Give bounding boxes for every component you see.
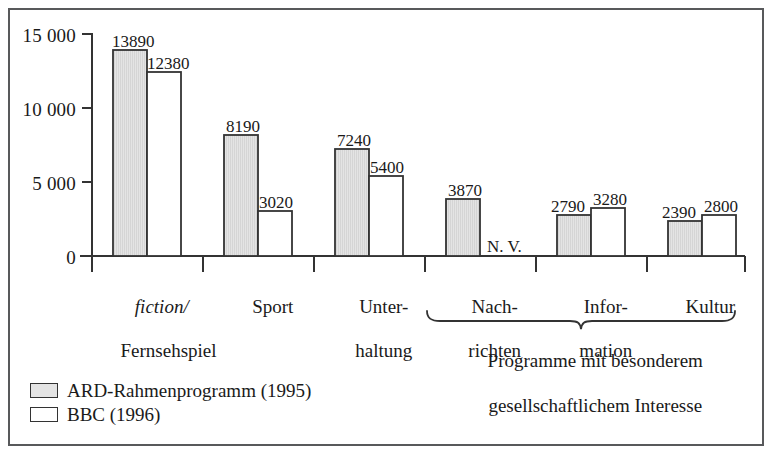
- y-tick-label-5000: 5 000: [0, 174, 76, 193]
- value-label-ard-kultur: 2390: [662, 204, 696, 221]
- value-label-ard-sport: 8190: [226, 118, 260, 135]
- category-label-kultur-line1: Kultur: [685, 296, 735, 317]
- legend-swatch-ard-icon: [30, 383, 58, 398]
- chart-figure: 15 000 10 000 5 000 0 13890 12380 8190 3…: [0, 0, 779, 459]
- y-tick-label-10000: 10 000: [0, 100, 76, 119]
- value-label-bbc-sport: 3020: [259, 194, 293, 211]
- category-label-nachrichten-line1: Nach-: [472, 296, 518, 317]
- value-label-ard-fiction: 13890: [112, 33, 155, 50]
- category-label-fiction: fiction/ Fernsehspiel: [92, 274, 203, 383]
- value-label-ard-nachrichten: 3870: [448, 182, 482, 199]
- bar-ard-nachrichten: [446, 199, 480, 256]
- y-tick-label-15000: 15 000: [0, 26, 76, 45]
- value-label-bbc-fiction: 12380: [147, 55, 190, 72]
- bar-bbc-information: [591, 208, 625, 256]
- legend-label-bbc: BBC (1996): [67, 405, 160, 424]
- category-label-sport: Sport: [203, 274, 314, 340]
- bar-bbc-kultur: [702, 215, 736, 256]
- chart-legend: ARD-Rahmenprogramm (1995) BBC (1996): [30, 378, 311, 426]
- value-label-bbc-kultur: 2800: [704, 198, 738, 215]
- value-label-ard-information: 2790: [551, 198, 585, 215]
- bar-bbc-sport: [258, 211, 292, 256]
- brace-caption-line2: gesellschaftlichem Interesse: [488, 395, 702, 416]
- bar-bbc-fiction: [147, 72, 181, 256]
- bar-bbc-unterhaltung: [369, 176, 403, 256]
- legend-swatch-bbc-icon: [30, 407, 58, 422]
- legend-item-ard: ARD-Rahmenprogramm (1995): [30, 378, 311, 402]
- bar-ard-unterhaltung: [335, 149, 369, 256]
- category-label-unterhaltung-line1: Unter-: [359, 296, 408, 317]
- category-label-information-line1: Infor-: [584, 296, 628, 317]
- bar-ard-information: [557, 215, 591, 256]
- value-label-ard-unterhaltung: 7240: [337, 132, 371, 149]
- bar-ard-kultur: [668, 221, 702, 256]
- y-tick-label-0: 0: [0, 248, 76, 267]
- category-label-fiction-line1: fiction/: [135, 296, 189, 317]
- brace-caption-line1: Programme mit besonderem: [488, 350, 703, 371]
- value-label-bbc-information: 3280: [593, 191, 627, 208]
- value-label-bbc-nachrichten-na: N. V.: [487, 238, 522, 255]
- plot-area: 15 000 10 000 5 000 0 13890 12380 8190 3…: [0, 0, 779, 459]
- bar-ard-fiction: [113, 50, 147, 256]
- bar-ard-sport: [224, 135, 258, 256]
- category-label-sport-line1: Sport: [252, 296, 293, 317]
- legend-label-ard: ARD-Rahmenprogramm (1995): [67, 381, 311, 400]
- brace-caption: Programme mit besonderem gesellschaftlic…: [406, 327, 756, 441]
- value-label-bbc-unterhaltung: 5400: [370, 159, 404, 176]
- category-label-unterhaltung-line2: haltung: [355, 340, 412, 361]
- legend-item-bbc: BBC (1996): [30, 402, 311, 426]
- category-label-fiction-line2: Fernsehspiel: [121, 340, 217, 361]
